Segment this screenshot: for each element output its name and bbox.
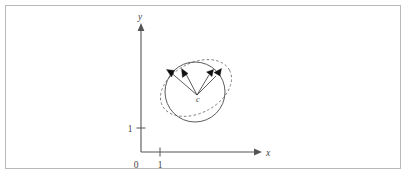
vector-1 bbox=[167, 70, 198, 96]
vector-3 bbox=[197, 70, 214, 96]
center-point-label: c bbox=[196, 94, 200, 104]
figure-root: y x 0 1 1 bbox=[0, 0, 409, 185]
y-axis-label: y bbox=[137, 12, 143, 22]
y-tick-label-1: 1 bbox=[128, 124, 133, 134]
dashed-ellipse-curve bbox=[151, 48, 242, 128]
origin-label: 0 bbox=[134, 160, 139, 170]
curves-group bbox=[151, 48, 242, 128]
vector-3-arrowhead bbox=[207, 70, 214, 77]
coordinate-plot: y x 0 1 1 bbox=[0, 0, 409, 185]
vector-2-line bbox=[186, 74, 197, 95]
vector-2 bbox=[182, 69, 198, 96]
vectors-group bbox=[167, 69, 222, 96]
x-axis-label: x bbox=[265, 148, 271, 158]
x-tick-label-1: 1 bbox=[158, 160, 163, 170]
y-axis-arrowhead bbox=[138, 23, 145, 31]
axes-group bbox=[137, 23, 263, 157]
vector-1-line bbox=[172, 74, 197, 96]
vector-1-arrowhead bbox=[167, 70, 175, 78]
x-axis-arrowhead bbox=[254, 149, 262, 156]
